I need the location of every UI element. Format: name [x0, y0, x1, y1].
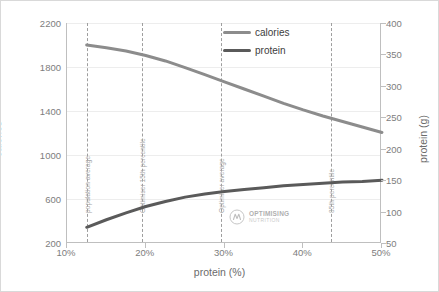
y-axis-left-ticks: 2006001000140018002200 [15, 23, 61, 243]
logo-icon [229, 209, 245, 225]
legend-label: protein [255, 45, 286, 56]
x-axis-tick-label: 20% [135, 247, 154, 258]
y-axis-right-tick-mark [381, 149, 386, 150]
y-axis-right-tick-mark [381, 243, 386, 244]
watermark-sub: NUTRITION [249, 218, 289, 223]
y-axis-right-tick-mark [381, 86, 386, 87]
legend-label: calories [255, 27, 289, 38]
x-axis-tick-label: 40% [293, 247, 312, 258]
y-axis-right-tick-label: 200 [386, 143, 402, 154]
legend-swatch [223, 31, 251, 34]
y-axis-right-tick-label: 400 [386, 18, 402, 29]
x-axis-tick-label: 10% [56, 247, 75, 258]
y-axis-right-tick-mark [381, 212, 386, 213]
optimising-nutrition-watermark: OPTIMISING NUTRITION [229, 209, 289, 225]
y-axis-right-tick-label: 250 [386, 112, 402, 123]
y-axis-right-tick-mark [381, 180, 386, 181]
legend-swatch [223, 49, 251, 52]
y-axis-left-tick-label: 2200 [40, 18, 61, 29]
y-axis-right-tick-label: 350 [386, 49, 402, 60]
series-lines [67, 23, 382, 243]
y-axis-left-tick-label: 1400 [40, 106, 61, 117]
plot-area: population averageOptimiser 15th percent… [66, 23, 381, 243]
y-axis-right-tick-label: 150 [386, 175, 402, 186]
y-axis-left-tick-label: 600 [45, 194, 61, 205]
chart-container: calories protein (g) protein (%) 2006001… [0, 0, 439, 292]
y-axis-left-tick-label: 1800 [40, 62, 61, 73]
y-axis-right-tick-label: 100 [386, 206, 402, 217]
x-axis-tick-label: 30% [214, 247, 233, 258]
legend-item[interactable]: protein [223, 45, 289, 56]
legend-item[interactable]: calories [223, 27, 289, 38]
x-axis-tick-label: 50% [371, 247, 390, 258]
x-axis-tick-mark [302, 243, 303, 248]
x-axis-tick-mark [145, 243, 146, 248]
y-axis-right-tick-mark [381, 23, 386, 24]
x-axis-title: protein (%) [1, 266, 438, 278]
legend: caloriesprotein [223, 27, 289, 56]
y-axis-right-tick-label: 300 [386, 80, 402, 91]
y-axis-left-title: calories [0, 121, 3, 157]
x-axis-tick-mark [224, 243, 225, 248]
y-axis-left-tick-label: 1000 [40, 150, 61, 161]
x-axis-tick-mark [66, 243, 67, 248]
y-axis-right-tick-mark [381, 117, 386, 118]
y-axis-right-tick-mark [381, 54, 386, 55]
y-axis-right-ticks: 50100150200250300350400 [386, 23, 426, 243]
series-line-calories [87, 45, 382, 132]
